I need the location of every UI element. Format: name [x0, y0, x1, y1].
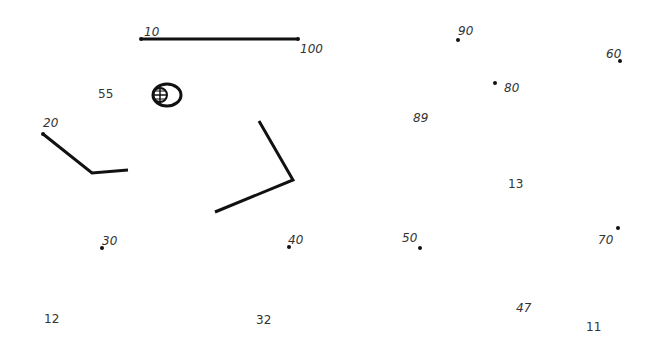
number-label: 40 [288, 234, 303, 246]
connect-dot[interactable] [618, 59, 622, 63]
connect-dot[interactable] [287, 245, 291, 249]
globe-eye-icon[interactable] [153, 84, 181, 106]
connect-dot[interactable] [41, 132, 45, 136]
line-20-segment [43, 134, 128, 173]
number-label: 11 [586, 321, 601, 333]
number-label: 12 [44, 313, 59, 325]
number-label: 30 [102, 235, 117, 247]
connect-dot[interactable] [456, 38, 460, 42]
connect-dot[interactable] [616, 226, 620, 230]
connect-dot[interactable] [100, 246, 104, 250]
connect-dot[interactable] [139, 37, 143, 41]
number-label: 55 [98, 88, 113, 100]
number-label: 70 [598, 234, 613, 246]
number-label: 89 [413, 112, 428, 124]
number-label: 13 [508, 178, 523, 190]
number-label: 90 [458, 25, 473, 37]
connect-dot[interactable] [296, 37, 300, 41]
number-label: 100 [300, 43, 323, 55]
connect-dot[interactable] [418, 246, 422, 250]
number-label: 32 [256, 314, 271, 326]
number-label: 20 [43, 117, 58, 129]
number-label: 50 [402, 232, 417, 244]
drawing-canvas[interactable] [0, 0, 652, 348]
number-label: 10 [144, 26, 159, 38]
line-chevron-segment [215, 121, 293, 212]
number-label: 47 [516, 302, 531, 314]
number-label: 80 [504, 82, 519, 94]
connect-dot[interactable] [493, 81, 497, 85]
